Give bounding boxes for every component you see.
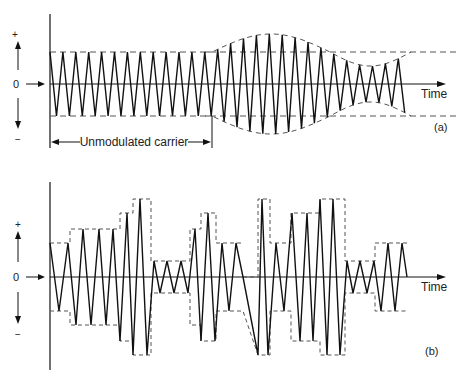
- panel-b-tag: (b): [425, 345, 438, 357]
- panel-a-carrier-arrowhead-right: [203, 139, 211, 145]
- panel-a-time-label: Time: [421, 87, 448, 101]
- panel-b-zero-arrowhead: [38, 274, 45, 280]
- panel-a-plus-arrowhead: [15, 41, 21, 49]
- panel-b-minus-arrowhead: [15, 316, 21, 324]
- panel-b-minus-label: −: [15, 329, 21, 340]
- modulation-diagram: + 0 − Time (a) Unmodulated carrier + 0: [0, 0, 460, 387]
- panel-a-plus-label: +: [12, 29, 18, 40]
- panel-a-carrier-label: Unmodulated carrier: [80, 135, 189, 149]
- panel-a: + 0 − Time (a) Unmodulated carrier: [12, 14, 456, 149]
- panel-a-minus-label: −: [15, 134, 21, 145]
- panel-a-tag: (a): [434, 121, 447, 133]
- panel-b-envelope-upper: [50, 199, 407, 277]
- panel-a-carrier-arrowhead-left: [51, 139, 59, 145]
- panel-b-zero-label: 0: [13, 271, 19, 283]
- panel-b: + 0 − Time (b): [13, 182, 448, 370]
- panel-b-time-label: Time: [421, 280, 448, 294]
- panel-a-minus-arrowhead: [15, 121, 21, 129]
- panel-a-zero-arrowhead: [38, 81, 45, 87]
- panel-a-zero-label: 0: [13, 78, 19, 90]
- panel-b-plus-label: +: [15, 219, 21, 230]
- panel-b-plus-arrowhead: [15, 231, 21, 239]
